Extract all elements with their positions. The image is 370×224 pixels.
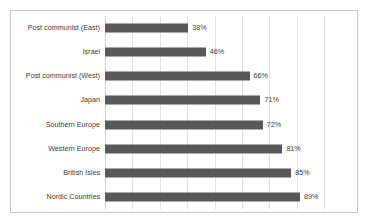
- bar: [105, 48, 206, 57]
- bar-row: Japan71%: [105, 88, 324, 112]
- bar-value-label: 46%: [210, 49, 224, 56]
- bar: [105, 192, 300, 201]
- plot-area: Post communist (East)38%Israel46%Post co…: [105, 16, 324, 209]
- gridline: [324, 16, 325, 209]
- category-label: Israel: [82, 49, 100, 56]
- plot-inner: Post communist (East)38%Israel46%Post co…: [11, 11, 357, 212]
- bar-row: Israel46%: [105, 40, 324, 64]
- bar-row: Post communist (West)66%: [105, 64, 324, 88]
- category-label: British Isles: [63, 169, 100, 176]
- bar-value-label: 66%: [254, 73, 268, 80]
- category-label: Nordic Countries: [46, 193, 100, 200]
- bar: [105, 120, 263, 129]
- category-label: Post communist (West): [26, 73, 100, 80]
- bar-value-label: 89%: [304, 193, 318, 200]
- bar-row: Nordic Countries89%: [105, 185, 324, 209]
- chart-frame: Post communist (East)38%Israel46%Post co…: [10, 10, 358, 213]
- bar: [105, 168, 291, 177]
- bar-row: Southern Europe72%: [105, 113, 324, 137]
- bar: [105, 72, 250, 81]
- bar: [105, 144, 282, 153]
- bar-value-label: 72%: [267, 121, 281, 128]
- bar-value-label: 81%: [286, 145, 300, 152]
- bar-row: Western Europe81%: [105, 137, 324, 161]
- bar-value-label: 71%: [264, 97, 278, 104]
- category-label: Western Europe: [48, 145, 100, 152]
- bar: [105, 96, 260, 105]
- bar: [105, 24, 188, 33]
- category-label: Post communist (East): [28, 24, 100, 31]
- bar-row: Post communist (East)38%: [105, 16, 324, 40]
- category-label: Southern Europe: [46, 121, 100, 128]
- bar-value-label: 85%: [295, 169, 309, 176]
- bar-row: British Isles85%: [105, 161, 324, 185]
- bar-value-label: 38%: [192, 24, 206, 31]
- category-label: Japan: [80, 97, 100, 104]
